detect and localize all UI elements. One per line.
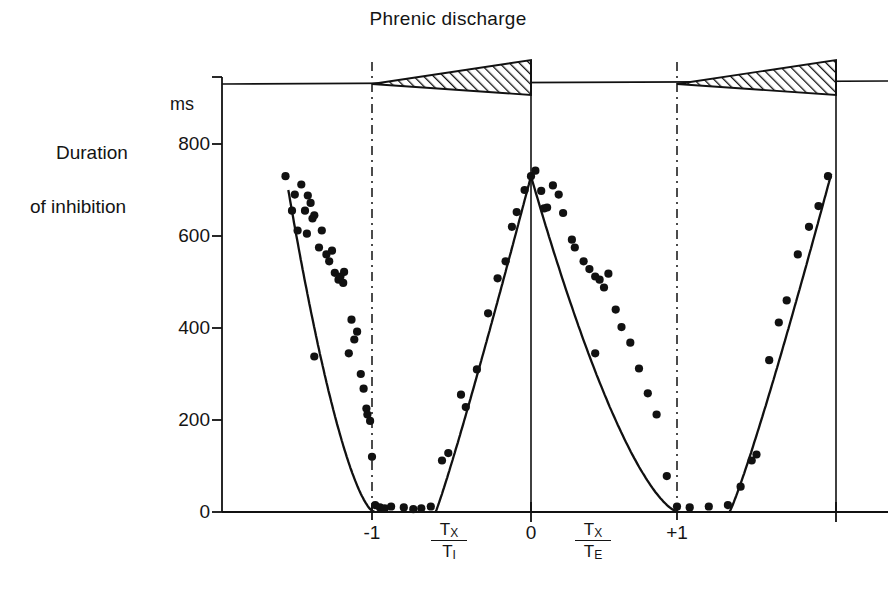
data-point bbox=[775, 318, 783, 326]
data-point bbox=[724, 501, 732, 509]
data-point bbox=[531, 167, 539, 175]
data-point bbox=[600, 283, 608, 291]
data-point bbox=[559, 209, 567, 217]
data-point bbox=[325, 257, 333, 265]
data-point bbox=[824, 172, 832, 180]
fitted-curve bbox=[288, 190, 374, 512]
data-point bbox=[555, 191, 563, 199]
data-point bbox=[521, 186, 529, 194]
data-point bbox=[635, 364, 643, 372]
data-point bbox=[288, 207, 296, 215]
y-axis-ticks bbox=[212, 77, 222, 512]
data-point bbox=[318, 226, 326, 234]
data-point bbox=[457, 391, 465, 399]
data-point bbox=[663, 472, 671, 480]
data-point bbox=[294, 226, 302, 234]
fitted-curve bbox=[436, 176, 531, 512]
data-point bbox=[427, 502, 435, 510]
data-point bbox=[400, 503, 408, 511]
fitted-curve bbox=[531, 176, 679, 512]
data-point bbox=[307, 199, 315, 207]
data-point bbox=[291, 191, 299, 199]
data-point bbox=[297, 180, 305, 188]
data-point bbox=[568, 236, 576, 244]
data-point bbox=[303, 230, 311, 238]
data-point bbox=[585, 265, 593, 273]
data-point bbox=[752, 450, 760, 458]
data-point bbox=[814, 202, 822, 210]
data-point bbox=[673, 502, 681, 510]
data-point bbox=[366, 417, 374, 425]
data-point bbox=[444, 449, 452, 457]
data-point bbox=[596, 276, 604, 284]
data-point bbox=[310, 211, 318, 219]
data-point bbox=[617, 323, 625, 331]
data-point bbox=[686, 503, 694, 511]
data-point bbox=[537, 187, 545, 195]
data-point bbox=[571, 243, 579, 251]
data-point bbox=[494, 274, 502, 282]
data-point bbox=[339, 279, 347, 287]
phrenic-burst-left bbox=[370, 55, 535, 100]
data-point bbox=[301, 207, 309, 215]
data-point bbox=[328, 247, 336, 255]
data-point bbox=[805, 223, 813, 231]
data-points bbox=[281, 167, 832, 514]
data-point bbox=[409, 505, 417, 513]
data-point bbox=[783, 296, 791, 304]
data-point bbox=[604, 270, 612, 278]
data-point bbox=[357, 370, 365, 378]
data-point bbox=[417, 504, 425, 512]
data-point bbox=[705, 502, 713, 510]
data-point bbox=[644, 389, 652, 397]
data-point bbox=[580, 257, 588, 265]
data-point bbox=[473, 365, 481, 373]
data-point bbox=[484, 309, 492, 317]
data-point bbox=[549, 181, 557, 189]
data-point bbox=[315, 243, 323, 251]
data-point bbox=[281, 172, 289, 180]
data-point bbox=[387, 502, 395, 510]
data-point bbox=[626, 339, 634, 347]
data-point bbox=[304, 191, 312, 199]
data-point bbox=[508, 223, 516, 231]
data-point bbox=[368, 453, 376, 461]
data-point bbox=[310, 352, 318, 360]
data-point bbox=[438, 456, 446, 464]
data-point bbox=[765, 356, 773, 364]
data-point bbox=[543, 203, 551, 211]
data-point bbox=[360, 385, 368, 393]
data-point bbox=[653, 410, 661, 418]
data-point bbox=[347, 316, 355, 324]
data-point bbox=[794, 250, 802, 258]
data-point bbox=[462, 403, 470, 411]
figure-container: Phrenic discharge Duration of inhibition… bbox=[0, 0, 896, 613]
data-point bbox=[502, 257, 510, 265]
plot-area bbox=[0, 0, 896, 613]
data-point bbox=[737, 483, 745, 491]
fitted-curve bbox=[730, 174, 832, 512]
data-point bbox=[513, 208, 521, 216]
data-point bbox=[591, 349, 599, 357]
data-point bbox=[340, 268, 348, 276]
phrenic-burst-right bbox=[675, 55, 840, 100]
data-point bbox=[350, 335, 358, 343]
data-point bbox=[612, 306, 620, 314]
data-point bbox=[345, 349, 353, 357]
data-point bbox=[353, 328, 361, 336]
